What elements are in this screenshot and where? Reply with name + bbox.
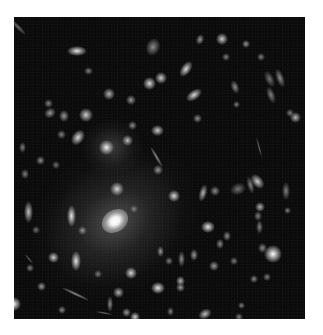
galaxy — [32, 226, 40, 234]
galaxy — [19, 142, 26, 153]
galaxy — [151, 282, 165, 294]
galaxy — [242, 40, 250, 48]
galaxy — [58, 306, 66, 314]
galaxy — [110, 182, 124, 196]
galaxy — [67, 46, 87, 56]
galaxy — [67, 205, 76, 227]
galaxy — [122, 135, 133, 146]
galaxy — [201, 221, 215, 233]
galaxy — [250, 275, 258, 283]
galaxy — [130, 312, 140, 319]
galaxy — [103, 88, 115, 100]
galaxy — [284, 207, 291, 214]
galaxy — [230, 257, 238, 265]
galaxy — [290, 112, 301, 123]
galaxy — [113, 287, 124, 298]
galaxy — [193, 114, 202, 123]
galaxy — [36, 156, 45, 165]
galaxy — [48, 252, 59, 263]
galaxy — [21, 169, 29, 179]
galaxy — [59, 110, 69, 122]
galaxy — [209, 261, 219, 271]
galaxy — [78, 226, 87, 235]
figure-caption — [14, 322, 305, 335]
galaxy — [24, 201, 33, 223]
galaxy — [151, 125, 164, 136]
galaxy — [57, 130, 66, 139]
galaxy — [143, 77, 156, 90]
galaxy — [125, 267, 137, 279]
galaxy — [167, 307, 174, 316]
galaxy — [79, 108, 93, 122]
galaxy — [99, 140, 114, 155]
galaxy — [216, 239, 224, 249]
galaxy — [130, 205, 138, 213]
galaxy — [233, 101, 240, 108]
galaxy — [223, 231, 231, 241]
galaxy — [257, 53, 265, 61]
galaxy — [26, 264, 34, 272]
page — [0, 0, 323, 335]
galaxy — [126, 95, 136, 105]
galaxy — [52, 161, 60, 169]
galaxy — [264, 245, 282, 263]
galaxy — [157, 246, 164, 257]
galaxy — [128, 121, 137, 130]
galaxy — [176, 283, 185, 292]
galaxy — [165, 257, 173, 265]
galaxy — [107, 296, 113, 312]
galaxy — [235, 313, 243, 319]
galaxy — [44, 99, 53, 108]
galaxy — [256, 220, 263, 234]
galaxy — [178, 251, 185, 267]
galaxy — [94, 270, 102, 278]
galaxy — [84, 67, 93, 75]
galaxy-cluster-photo — [14, 17, 305, 319]
galaxy — [155, 72, 167, 84]
galaxy — [210, 186, 220, 196]
galaxy — [37, 282, 46, 291]
galaxy — [238, 302, 245, 309]
galaxy — [168, 190, 180, 202]
galaxy — [222, 53, 230, 61]
galaxy — [263, 273, 271, 281]
galaxy — [216, 33, 228, 45]
galaxy — [282, 182, 290, 200]
galaxy — [71, 251, 81, 271]
galaxy — [190, 249, 198, 261]
